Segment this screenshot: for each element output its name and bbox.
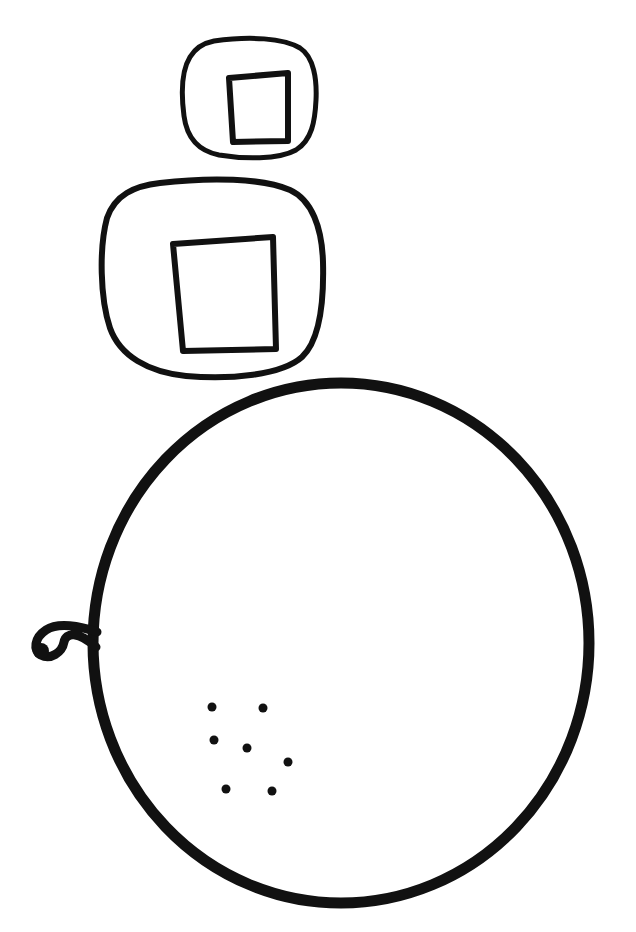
- seed-dot: [268, 787, 277, 796]
- seed-dot: [259, 704, 268, 713]
- drawing-svg: [0, 0, 636, 932]
- seed-dot: [243, 744, 252, 753]
- drawing-canvas: [0, 0, 636, 932]
- stem-tip-blob: [33, 643, 49, 659]
- seed-dot: [284, 758, 293, 767]
- seed-dot: [210, 736, 219, 745]
- seed-dot: [222, 785, 231, 794]
- seed-dot: [208, 703, 217, 712]
